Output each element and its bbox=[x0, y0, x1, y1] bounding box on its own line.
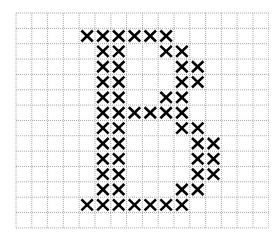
cross-stitch-x-icon bbox=[144, 107, 155, 118]
cross-stitch-x-icon bbox=[113, 107, 124, 118]
stitch-grid bbox=[15, 12, 270, 229]
cross-stitch-x-icon bbox=[192, 123, 203, 134]
cross-stitch-x-icon bbox=[192, 169, 203, 180]
cross-stitch-x-icon bbox=[176, 199, 187, 210]
cross-stitch-x-icon bbox=[97, 77, 108, 88]
cross-stitch-x-icon bbox=[176, 77, 187, 88]
cross-stitch-x-icon bbox=[176, 61, 187, 72]
cross-stitch-canvas bbox=[0, 0, 280, 244]
cross-stitch-x-icon bbox=[176, 92, 187, 103]
cross-stitch-x-icon bbox=[144, 199, 155, 210]
cross-stitch-x-icon bbox=[176, 123, 187, 134]
cross-stitch-x-icon bbox=[97, 153, 108, 164]
cross-stitch-x-icon bbox=[192, 184, 203, 195]
cross-stitch-x-icon bbox=[160, 107, 171, 118]
cross-stitch-x-icon bbox=[97, 107, 108, 118]
cross-stitch-x-icon bbox=[113, 184, 124, 195]
cross-stitch-x-icon bbox=[97, 199, 108, 210]
cross-stitch-x-icon bbox=[207, 169, 218, 180]
cross-stitch-x-icon bbox=[97, 46, 108, 57]
cross-stitch-x-icon bbox=[176, 46, 187, 57]
cross-stitch-x-icon bbox=[144, 31, 155, 42]
cross-stitch-x-icon bbox=[113, 61, 124, 72]
cross-stitch-x-icon bbox=[97, 138, 108, 149]
cross-stitch-x-icon bbox=[113, 138, 124, 149]
cross-stitch-x-icon bbox=[97, 92, 108, 103]
cross-stitch-x-icon bbox=[192, 61, 203, 72]
cross-stitch-x-icon bbox=[192, 138, 203, 149]
cross-stitch-x-icon bbox=[113, 77, 124, 88]
cross-stitch-x-icon bbox=[160, 92, 171, 103]
cross-stitch-x-icon bbox=[207, 153, 218, 164]
cross-stitch-x-icon bbox=[113, 123, 124, 134]
cross-stitch-x-icon bbox=[128, 107, 139, 118]
cross-stitch-x-icon bbox=[176, 107, 187, 118]
cross-stitch-x-icon bbox=[97, 31, 108, 42]
cross-stitch-x-icon bbox=[81, 31, 92, 42]
cross-stitch-x-icon bbox=[160, 31, 171, 42]
cross-stitch-x-icon bbox=[81, 199, 92, 210]
cross-stitch-x-icon bbox=[97, 61, 108, 72]
cross-stitch-x-icon bbox=[207, 138, 218, 149]
cross-stitch-x-icon bbox=[113, 31, 124, 42]
grid-svg bbox=[15, 12, 270, 229]
cross-stitch-x-icon bbox=[192, 153, 203, 164]
cross-stitch-x-icon bbox=[113, 199, 124, 210]
cross-stitch-x-icon bbox=[113, 169, 124, 180]
cross-stitch-x-icon bbox=[97, 169, 108, 180]
cross-stitch-x-icon bbox=[113, 153, 124, 164]
cross-stitch-x-icon bbox=[160, 46, 171, 57]
cross-stitch-x-icon bbox=[128, 31, 139, 42]
cross-stitch-x-icon bbox=[97, 123, 108, 134]
cross-stitch-x-icon bbox=[113, 46, 124, 57]
grid-lines bbox=[16, 13, 269, 228]
cross-stitch-x-icon bbox=[113, 92, 124, 103]
cross-stitch-x-icon bbox=[97, 184, 108, 195]
cross-stitch-x-icon bbox=[192, 77, 203, 88]
cross-stitch-x-icon bbox=[176, 184, 187, 195]
cross-stitch-x-icon bbox=[160, 199, 171, 210]
cross-stitch-x-icon bbox=[128, 199, 139, 210]
